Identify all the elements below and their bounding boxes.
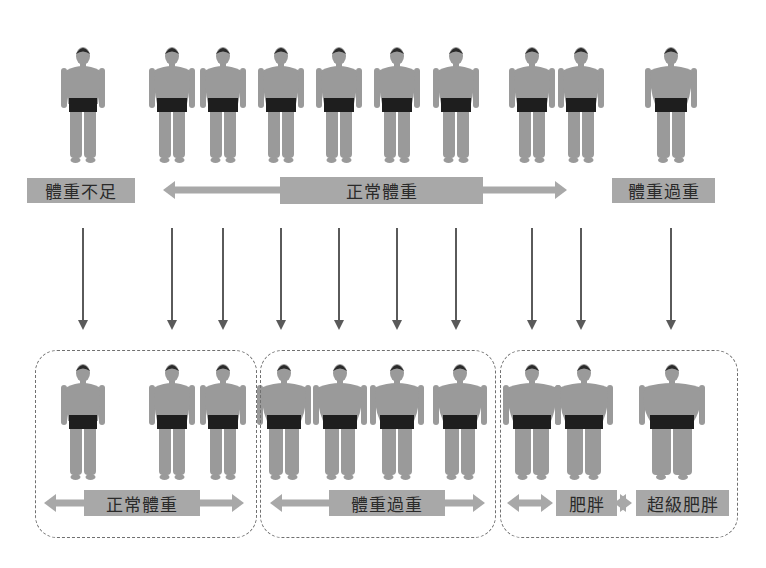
down-arrow-icon xyxy=(276,228,286,330)
label-group-overweight: 體重過重 xyxy=(329,490,445,516)
person-top-5 xyxy=(316,47,362,163)
down-arrow-icon xyxy=(527,228,537,330)
label-underweight: 體重不足 xyxy=(27,178,135,203)
label-group-obese: 肥胖 xyxy=(556,490,617,516)
person-top-2 xyxy=(149,47,195,163)
person-top-1 xyxy=(61,47,105,163)
label-overweight: 體重過重 xyxy=(612,178,715,203)
down-arrow-icon xyxy=(451,228,461,330)
down-arrow-icon xyxy=(392,228,402,330)
down-arrow-icon xyxy=(167,228,177,330)
down-arrow-icon xyxy=(218,228,228,330)
person-top-8 xyxy=(509,47,555,163)
person-top-9 xyxy=(558,47,604,163)
down-arrow-icon xyxy=(576,228,586,330)
person-top-3 xyxy=(200,47,246,163)
person-top-6 xyxy=(374,47,420,163)
person-top-7 xyxy=(433,47,479,163)
down-arrow-icon xyxy=(334,228,344,330)
label-normal-weight: 正常體重 xyxy=(280,177,483,204)
label-group-normal: 正常體重 xyxy=(84,490,200,516)
down-arrow-icon xyxy=(78,228,88,330)
person-top-10 xyxy=(645,47,697,163)
label-group-super-obese: 超級肥胖 xyxy=(636,490,729,516)
down-arrow-icon xyxy=(666,228,676,330)
person-top-4 xyxy=(258,47,304,163)
